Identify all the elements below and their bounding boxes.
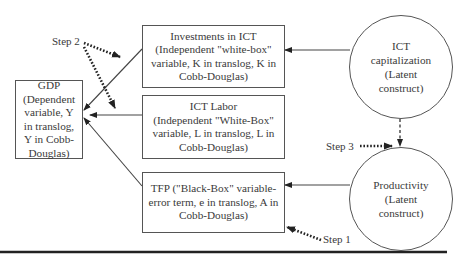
- step2-arrow-to-labor: [84, 47, 115, 108]
- ict-labor-box: ICT Labor (Independent "White-Box" varia…: [142, 95, 285, 159]
- arrow-tfp-to-gdp: [84, 118, 142, 186]
- productivity-circle: Productivity (Latent construct): [349, 147, 453, 251]
- gdp-label: GDP (Dependent variable, Y in translog, …: [23, 79, 75, 160]
- step1-arrow: [287, 227, 321, 240]
- productivity-label: Productivity (Latent construct): [373, 178, 428, 220]
- ict-capitalization-label: ICT capitalization (Latent construct): [371, 39, 431, 95]
- investments-in-ict-box: Investments in ICT (Independent "white-b…: [142, 25, 285, 88]
- ict-capitalization-circle: ICT capitalization (Latent construct): [349, 15, 453, 119]
- arrow-investments-to-gdp: [84, 49, 142, 110]
- tfp-label: TFP ("Black-Box" variable- error term, e…: [149, 182, 279, 223]
- step2-arrow-to-investments: [84, 43, 120, 57]
- step-1-label: Step 1: [323, 233, 351, 245]
- ict-labor-label: ICT Labor (Independent "White-Box" varia…: [153, 100, 275, 154]
- tfp-box: TFP ("Black-Box" variable- error term, e…: [142, 172, 285, 233]
- gdp-box: GDP (Dependent variable, Y in translog, …: [15, 80, 83, 159]
- investments-label: Investments in ICT (Independent "white-b…: [151, 30, 276, 84]
- step-3-label: Step 3: [326, 140, 354, 152]
- step-2-label: Step 2: [52, 35, 80, 47]
